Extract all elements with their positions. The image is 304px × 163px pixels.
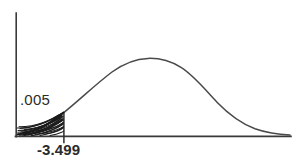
tail-area-label: .005 — [20, 92, 50, 107]
normal-curve-figure: .005 -3.499 — [0, 0, 304, 163]
tail-shading-scribble — [17, 112, 63, 135]
x-axis-tick-label: -3.499 — [37, 142, 80, 157]
distribution-plot — [0, 0, 304, 163]
